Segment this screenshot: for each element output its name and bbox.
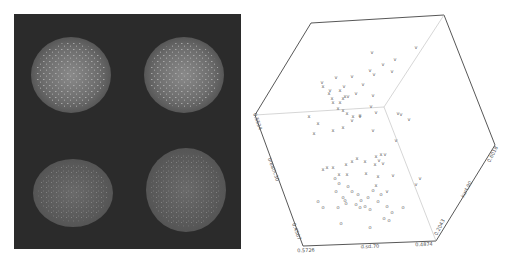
data-point: x <box>338 171 341 177</box>
y-axis-min: 0.2043 <box>432 218 446 236</box>
x-axis-label: d.sd.70 <box>361 243 380 250</box>
data-point: x <box>342 124 345 130</box>
data-point: v <box>347 93 350 99</box>
data-point: v <box>373 71 376 77</box>
data-point: v <box>372 127 375 133</box>
data-point: o <box>401 204 404 210</box>
data-point: x <box>344 93 347 99</box>
data-point: v <box>394 56 397 62</box>
data-point: v <box>395 137 398 143</box>
data-point: v <box>419 175 422 181</box>
data-point: x <box>375 182 378 188</box>
data-point: x <box>356 155 359 161</box>
data-point: v <box>382 61 385 67</box>
data-point: v <box>392 172 395 178</box>
x-axis-max: 0.4874 <box>415 241 433 248</box>
data-point: v <box>335 74 338 80</box>
data-point: v <box>386 188 389 194</box>
data-point: x <box>332 164 335 170</box>
data-point: x <box>308 113 311 119</box>
data-point: v <box>355 90 358 96</box>
z-axis-min: 0.4507 <box>291 222 303 240</box>
data-point: v <box>384 151 387 157</box>
data-point: x <box>374 161 377 167</box>
data-point: x <box>332 127 335 133</box>
data-point: x <box>322 166 325 172</box>
data-point: o <box>379 191 382 197</box>
data-point: x <box>359 112 362 118</box>
x-axis-min: 0.5726 <box>297 247 315 254</box>
data-point: x <box>345 161 348 167</box>
data-point: v <box>375 109 378 115</box>
data-point: o <box>344 200 347 206</box>
data-point: v <box>369 67 372 73</box>
data-point: o <box>358 204 361 210</box>
data-point: x <box>351 158 354 164</box>
data-point: x <box>375 153 378 159</box>
data-point: o <box>368 224 371 230</box>
data-point: o <box>316 198 319 204</box>
data-point: o <box>359 197 362 203</box>
data-point: v <box>391 68 394 74</box>
data-point: v <box>371 49 374 55</box>
data-point: x <box>332 99 335 105</box>
data-point: o <box>321 204 324 210</box>
data-point: v <box>351 73 354 79</box>
figure: vvvvvvvvvvvvvvvvvvvvvvvvvvvvvvvvxxxxxxxx… <box>0 0 512 265</box>
data-point: v <box>415 44 418 50</box>
data-point: x <box>365 170 368 176</box>
data-point: v <box>400 111 403 117</box>
data-point: v <box>408 116 411 122</box>
data-point: x <box>364 158 367 164</box>
y-axis-label: kurt.90 <box>459 180 473 199</box>
data-point: x <box>326 164 329 170</box>
y-axis-max: 0.6018 <box>485 145 499 163</box>
data-point: o <box>382 215 385 221</box>
data-point: o <box>334 188 337 194</box>
data-point: o <box>363 203 366 209</box>
data-point: o <box>337 180 340 186</box>
data-point: x <box>339 87 342 93</box>
data-point: o <box>376 198 379 204</box>
data-point: o <box>354 201 357 207</box>
z-axis-label: breath.30 <box>267 157 281 182</box>
scatter-points: vvvvvvvvvvvvvvvvvvvvvvvvvvvvvvvvxxxxxxxx… <box>308 44 422 230</box>
data-point: v <box>362 81 365 87</box>
data-point: o <box>333 175 336 181</box>
data-point: v <box>382 160 385 166</box>
data-point: x <box>346 110 349 116</box>
data-point: o <box>336 204 339 210</box>
data-point: x <box>313 130 316 136</box>
data-point: v <box>343 83 346 89</box>
data-point: x <box>380 151 383 157</box>
data-point: v <box>378 157 381 163</box>
data-point: o <box>387 217 390 223</box>
data-point: v <box>372 92 375 98</box>
data-point: x <box>377 173 380 179</box>
data-point: v <box>415 181 418 187</box>
data-point: o <box>339 220 342 226</box>
data-point: x <box>322 83 325 89</box>
data-point: o <box>350 188 353 194</box>
data-point: o <box>390 209 393 215</box>
cube-frame <box>255 15 495 246</box>
data-point: x <box>352 113 355 119</box>
data-point: o <box>371 187 374 193</box>
data-point: x <box>337 105 340 111</box>
scatter-cube-plot: vvvvvvvvvvvvvvvvvvvvvvvvvvvvvvvvxxxxxxxx… <box>0 0 512 265</box>
data-point: x <box>346 171 349 177</box>
data-point: o <box>368 206 371 212</box>
data-point: x <box>342 107 345 113</box>
data-point: o <box>346 183 349 189</box>
data-point: o <box>366 194 369 200</box>
data-point: o <box>385 203 388 209</box>
data-point: x <box>317 120 320 126</box>
data-point: v <box>370 103 373 109</box>
